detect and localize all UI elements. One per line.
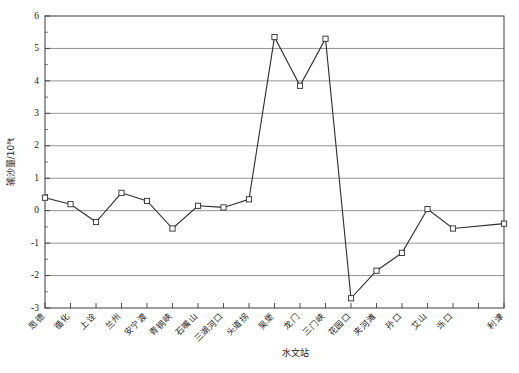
x-tick-group xyxy=(45,303,504,308)
y-tick-label: 2 xyxy=(34,140,39,150)
x-tick-label: 青铜峡 xyxy=(148,311,174,337)
x-tick-label: 安宁渡 xyxy=(122,311,148,337)
y-tick-label: 4 xyxy=(34,76,39,86)
y-tick-label: 5 xyxy=(34,43,39,53)
data-point-marker xyxy=(450,226,455,231)
data-point-marker xyxy=(68,202,73,207)
data-point-marker xyxy=(221,205,226,210)
y-tick-label: 0 xyxy=(34,205,39,215)
x-tick-label: 上诠 xyxy=(78,311,98,331)
data-point-marker xyxy=(272,34,277,39)
x-axis-title: 水文站 xyxy=(282,347,309,358)
y-tick-label: 6 xyxy=(34,11,39,21)
x-tick-label: 花园口 xyxy=(326,311,352,337)
x-tick-label: 龙门 xyxy=(282,311,302,331)
chart-figure: -3-2-10123456 思德循化上诠兰州安宁渡青铜峡石嘴山三湖河口头道拐吴堡… xyxy=(0,0,519,373)
gridline-group xyxy=(45,48,504,275)
x-tick-label: 孙口 xyxy=(384,311,404,331)
data-point-marker xyxy=(170,226,175,231)
data-point-markers xyxy=(42,34,506,300)
x-tick-label: 循化 xyxy=(52,311,72,331)
y-tick-label: 1 xyxy=(34,173,39,183)
y-tick-label: -3 xyxy=(31,303,39,313)
y-axis-tick-labels: -3-2-10123456 xyxy=(31,11,39,313)
x-axis-tick-labels: 思德循化上诠兰州安宁渡青铜峡石嘴山三湖河口头道拐吴堡龙门三门峡花园口夹河滩孙口艾… xyxy=(27,311,506,344)
x-tick-label: 吴堡 xyxy=(256,311,276,331)
data-point-marker xyxy=(195,203,200,208)
x-tick-label: 三门峡 xyxy=(301,311,327,337)
data-point-marker xyxy=(374,268,379,273)
data-point-marker xyxy=(246,197,251,202)
data-point-marker xyxy=(348,296,353,301)
x-tick-label: 三湖河口 xyxy=(192,311,225,344)
data-point-marker xyxy=(399,250,404,255)
y-tick-label: 3 xyxy=(34,108,39,118)
x-tick-label: 泺口 xyxy=(435,311,455,331)
line-chart-svg: -3-2-10123456 思德循化上诠兰州安宁渡青铜峡石嘴山三湖河口头道拐吴堡… xyxy=(0,0,519,373)
data-point-marker xyxy=(501,221,506,226)
x-tick-label: 头道拐 xyxy=(224,311,250,337)
x-tick-label: 艾山 xyxy=(409,311,429,331)
data-point-marker xyxy=(323,36,328,41)
y-tick-label: -2 xyxy=(31,270,39,280)
x-tick-label: 思德 xyxy=(27,311,47,331)
plot-frame xyxy=(45,16,504,308)
y-axis-title: 输沙量/10⁸t xyxy=(5,137,16,186)
x-tick-label: 利津 xyxy=(486,311,506,331)
y-tick-label: -1 xyxy=(31,238,39,248)
series-line xyxy=(45,37,504,298)
x-tick-label: 夹河滩 xyxy=(352,311,378,337)
data-point-marker xyxy=(144,198,149,203)
data-point-marker xyxy=(425,206,430,211)
data-point-marker xyxy=(119,190,124,195)
data-point-marker xyxy=(297,83,302,88)
data-point-marker xyxy=(93,219,98,224)
data-point-marker xyxy=(42,195,47,200)
x-tick-label: 兰州 xyxy=(103,311,123,331)
